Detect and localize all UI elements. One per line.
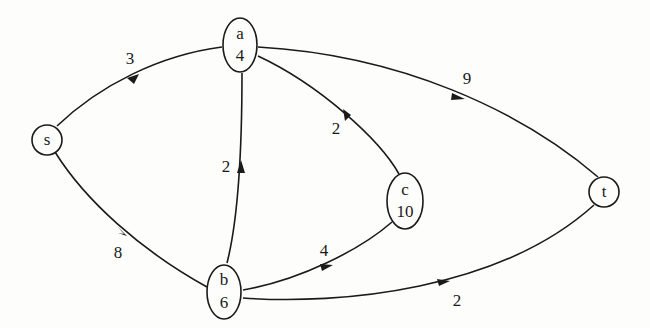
node-b-label: b [220, 270, 229, 289]
node-a-label: a [236, 24, 244, 43]
arrow-b-t-icon [437, 279, 450, 286]
edge-c-a [258, 56, 399, 174]
node-a: a 4 [223, 18, 257, 72]
node-c-value: 10 [397, 202, 414, 221]
node-c-label: c [401, 180, 409, 199]
arrow-b-a-icon [237, 160, 245, 173]
edge-weight-b-c: 4 [320, 241, 329, 260]
node-c: c 10 [387, 173, 423, 229]
edge-s-a [57, 47, 222, 126]
edge-b-c [243, 222, 392, 290]
edge-weight-b-t: 2 [453, 291, 462, 310]
node-t: t [589, 177, 619, 207]
edge-weight-a-t: 9 [463, 69, 472, 88]
edge-weight-s-a: 3 [126, 49, 135, 68]
node-a-value: 4 [236, 46, 245, 65]
node-b: b 6 [207, 265, 241, 319]
graph-svg: 3 8 2 2 4 9 2 s a 4 b 6 c 10 t [0, 0, 650, 328]
graph-diagram: 3 8 2 2 4 9 2 s a 4 b 6 c 10 t [0, 0, 650, 328]
arrow-c-a-icon [343, 109, 351, 121]
edge-weight-s-b: 8 [114, 243, 123, 262]
edge-weight-b-a: 2 [222, 157, 231, 176]
node-s: s [32, 125, 62, 155]
edge-s-b [55, 152, 207, 287]
node-t-label: t [602, 182, 607, 201]
arrow-b-c-icon [320, 264, 333, 271]
edge-a-t [258, 47, 598, 177]
node-b-value: 6 [220, 293, 229, 312]
node-s-label: s [44, 130, 51, 149]
edge-weight-c-a: 2 [332, 119, 341, 138]
